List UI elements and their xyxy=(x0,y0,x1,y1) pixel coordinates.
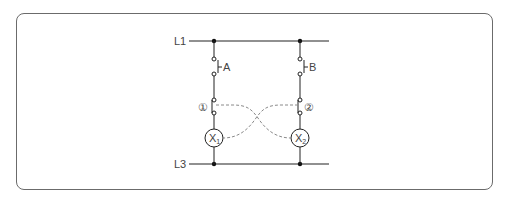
switch-b: B xyxy=(298,57,316,76)
interlock-links xyxy=(216,105,298,138)
rail-l1: L1 xyxy=(174,35,329,47)
lamp-x2: X2 xyxy=(291,129,309,147)
rail-l3-label: L3 xyxy=(174,158,186,170)
switch-b-label: B xyxy=(309,61,316,73)
branch-left: A ① X1 xyxy=(198,41,231,164)
interlock-contact-1-label: ① xyxy=(198,101,208,113)
interlock-contact-2: ② xyxy=(298,98,314,115)
rail-l1-label: L1 xyxy=(174,35,186,47)
lamp-x1: X1 xyxy=(205,129,223,147)
rail-l3: L3 xyxy=(174,158,329,170)
interlock-contact-2-label: ② xyxy=(304,101,314,113)
interlock-contact-1: ① xyxy=(198,98,216,115)
circuit-diagram: L1 L3 A ① xyxy=(0,0,507,200)
switch-a-label: A xyxy=(223,61,231,73)
branch-right: B ② X2 xyxy=(291,41,316,164)
switch-a: A xyxy=(212,57,231,76)
